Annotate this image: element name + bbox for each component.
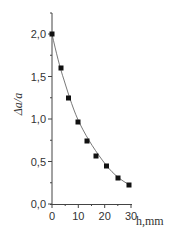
- data-point: [94, 154, 99, 159]
- y-axis-title: Δa/a: [11, 93, 25, 116]
- data-point: [116, 176, 121, 181]
- data-point: [76, 120, 81, 125]
- x-tick-label: 20: [99, 210, 111, 222]
- data-point: [59, 66, 64, 71]
- data-point: [85, 139, 90, 144]
- data-point: [50, 32, 55, 37]
- y-tick-label: 1,5: [31, 71, 46, 83]
- data-point: [66, 96, 71, 101]
- data-point: [127, 183, 132, 188]
- y-tick-label: 1,0: [31, 113, 46, 125]
- y-tick-label: 2,0: [31, 28, 46, 40]
- data-points: [50, 32, 132, 188]
- y-tick-label: 0,0: [31, 198, 46, 210]
- chart: 0,0 0,5 1,0 1,5 2,0 0 10 20 30 h,mm Δa/a: [0, 0, 178, 240]
- data-point: [104, 164, 109, 169]
- y-ticks: [48, 13, 52, 204]
- x-tick-label: 10: [72, 210, 84, 222]
- x-axis-title: h,mm: [136, 214, 164, 228]
- y-tick-label: 0,5: [31, 156, 46, 168]
- fit-curve: [52, 34, 130, 185]
- x-tick-label: 0: [49, 210, 55, 222]
